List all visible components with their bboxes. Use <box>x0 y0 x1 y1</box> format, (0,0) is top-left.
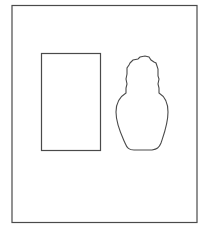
outer-frame <box>12 6 197 223</box>
blank-rectangle <box>42 54 101 151</box>
drawing-canvas <box>0 0 211 230</box>
vase-outline <box>116 56 168 150</box>
